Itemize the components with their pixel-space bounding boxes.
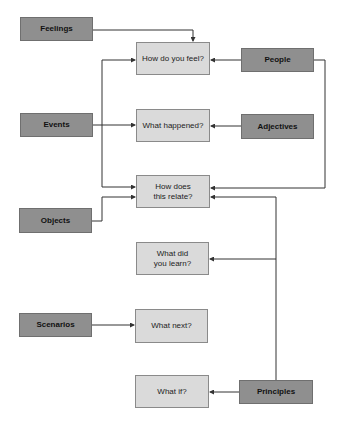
objects-label: Objects — [41, 216, 70, 226]
how-do-you-feel-label: How do you feel? — [142, 54, 204, 64]
what-happened-node: What happened? — [136, 109, 210, 142]
what-happened-label: What happened? — [143, 121, 204, 131]
what-if-node: What if? — [135, 375, 209, 408]
how-do-you-feel-node: How do you feel? — [136, 42, 210, 75]
adjectives-label: Adjectives — [257, 122, 297, 132]
events-label: Events — [43, 120, 69, 130]
people-label: People — [264, 55, 290, 65]
learn-label-line2: you learn? — [154, 259, 191, 269]
how-does-this-relate-node: How does this relate? — [136, 175, 210, 208]
people-node: People — [241, 48, 314, 72]
events-node: Events — [20, 113, 93, 137]
feelings-label: Feelings — [40, 24, 72, 34]
learn-label-line1: What did — [157, 249, 189, 259]
principles-label: Principles — [257, 387, 295, 397]
what-next-label: What next? — [151, 321, 191, 331]
scenarios-label: Scenarios — [36, 320, 74, 330]
what-next-node: What next? — [135, 309, 208, 343]
relate-label-line1: How does — [155, 182, 191, 192]
feelings-node: Feelings — [20, 17, 93, 41]
what-if-label: What if? — [157, 387, 186, 397]
scenarios-node: Scenarios — [19, 313, 92, 337]
adjectives-node: Adjectives — [241, 114, 314, 139]
objects-node: Objects — [19, 208, 92, 233]
relate-label-line2: this relate? — [153, 192, 192, 202]
what-did-you-learn-node: What did you learn? — [136, 242, 209, 275]
principles-node: Principles — [239, 380, 313, 404]
